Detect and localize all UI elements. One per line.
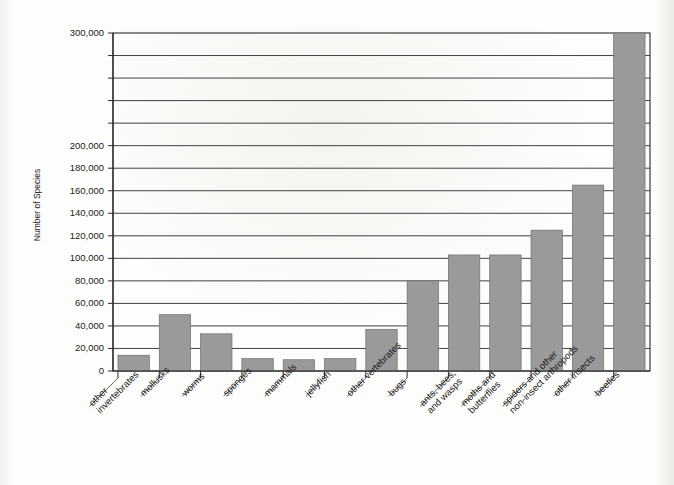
plot-frame <box>113 33 650 371</box>
category-label: worms <box>178 370 206 398</box>
y-tick-label: 140,000 <box>70 207 104 218</box>
category-label: moths andbutterflies <box>458 369 505 416</box>
y-tick-label: 160,000 <box>70 185 104 196</box>
category-label: bugs <box>386 376 409 399</box>
bar-chart: Number of Species 020,00040,00060,00080,… <box>0 0 674 485</box>
y-axis-title-text: Number of Species <box>32 169 42 241</box>
y-tick-label: 80,000 <box>75 275 104 286</box>
y-tick-label: 20,000 <box>75 342 104 353</box>
chart-canvas: Number of Species 020,00040,00060,00080,… <box>0 0 674 485</box>
gridlines <box>113 56 650 349</box>
y-tick-label: 0 <box>99 365 104 376</box>
bar <box>118 355 149 371</box>
bar <box>159 315 190 371</box>
y-axis-ticks: 020,00040,00060,00080,000100,000120,0001… <box>70 27 113 376</box>
bar <box>614 33 645 371</box>
y-tick-label: 100,000 <box>70 252 104 263</box>
y-tick-label: 40,000 <box>75 320 104 331</box>
y-axis-title: Number of Species <box>32 169 42 241</box>
category-label-line: worms <box>178 370 206 398</box>
y-tick-label: 180,000 <box>70 162 104 173</box>
bar <box>572 185 603 371</box>
category-label-line: bugs <box>386 376 409 399</box>
category-label: ants, bees,and wasps <box>417 367 465 415</box>
category-label-line: jellyfish <box>302 368 333 399</box>
bar <box>490 255 521 371</box>
category-label: jellyfish <box>302 368 333 399</box>
y-tick-label: 200,000 <box>70 140 104 151</box>
bar <box>325 359 356 371</box>
y-tick-label: 300,000 <box>70 27 104 38</box>
bars <box>118 33 645 371</box>
y-tick-label: 120,000 <box>70 230 104 241</box>
category-label: beetles <box>592 369 622 399</box>
category-label-line: beetles <box>592 369 622 399</box>
bar <box>531 230 562 371</box>
y-tick-label: 60,000 <box>75 297 104 308</box>
category-label: otherinvertebrates <box>86 361 140 415</box>
bar <box>448 255 479 371</box>
bar <box>201 334 232 371</box>
bar <box>407 281 438 371</box>
